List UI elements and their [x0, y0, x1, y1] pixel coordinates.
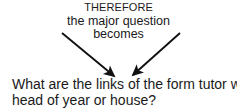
premise-line-major-question: the major question — [0, 15, 237, 29]
conclusion-line-1: What are the links of the form tutor wit… — [12, 76, 237, 92]
conclusion-line-2: head of year or house? — [12, 92, 237, 108]
premise-line-therefore: THEREFORE — [0, 1, 237, 15]
premise-line-becomes: becomes — [0, 28, 237, 42]
premise-text-block: THEREFORE the major question becomes — [0, 1, 237, 42]
argument-diagram: THEREFORE the major question becomes Wha… — [0, 0, 237, 110]
conclusion-text-block: What are the links of the form tutor wit… — [12, 76, 237, 108]
